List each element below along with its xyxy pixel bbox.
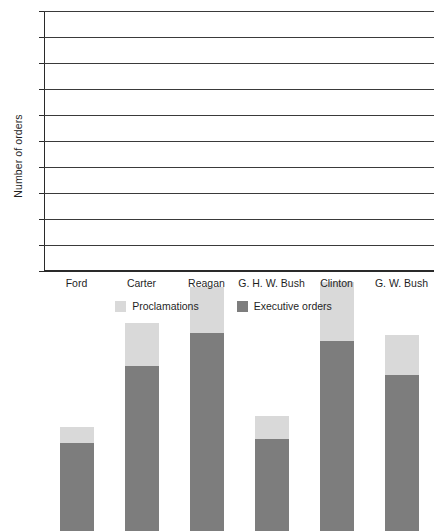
bar-segment-proclamations[interactable] (60, 427, 94, 443)
bar-segment-executive-orders[interactable] (255, 439, 289, 531)
x-axis-label: Reagan (188, 277, 225, 289)
legend-swatch-icon (115, 301, 126, 312)
bar-segment-executive-orders[interactable] (60, 443, 94, 531)
x-axis-label: Clinton (320, 277, 353, 289)
bar-segment-proclamations[interactable] (255, 416, 289, 439)
bar-segment-executive-orders[interactable] (125, 366, 159, 531)
bar-segment-executive-orders[interactable] (385, 375, 419, 531)
chart-legend: ProclamationsExecutive orders (0, 300, 447, 312)
x-axis-label: G. W. Bush (375, 277, 428, 289)
bar-segment-executive-orders[interactable] (320, 341, 354, 531)
legend-item[interactable]: Proclamations (115, 300, 199, 312)
legend-label: Proclamations (132, 300, 199, 312)
legend-swatch-icon (237, 301, 248, 312)
bar-segment-proclamations[interactable] (385, 335, 419, 375)
legend-item[interactable]: Executive orders (237, 300, 332, 312)
bar-segment-executive-orders[interactable] (190, 333, 224, 531)
bar-series-container (44, 11, 434, 271)
x-axis-label: Carter (127, 277, 156, 289)
bar-segment-proclamations[interactable] (125, 323, 159, 366)
x-axis-label: Ford (66, 277, 88, 289)
legend-label: Executive orders (254, 300, 332, 312)
plot-area: 050100150200250300350400450500 FordCarte… (44, 11, 434, 271)
x-axis-label: G. H. W. Bush (238, 277, 305, 289)
y-axis-title: Number of orders (12, 86, 24, 226)
